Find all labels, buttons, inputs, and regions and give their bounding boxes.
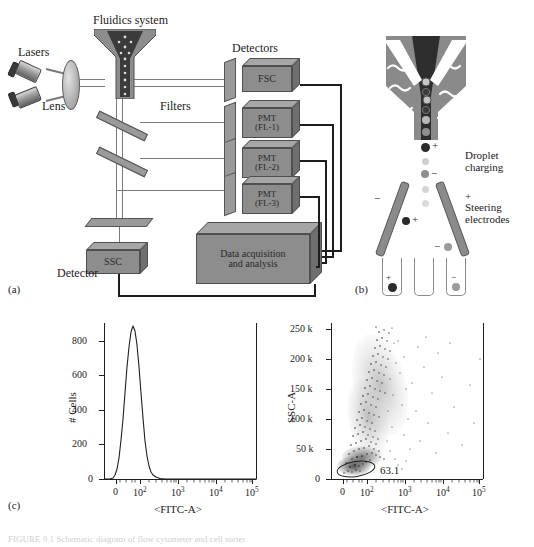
droplet-charging-label: Droplet charging xyxy=(465,150,503,173)
histogram-x-axis-title: <FITC-A> xyxy=(154,503,202,515)
scatter-xlabel-1e3: 103 xyxy=(398,486,412,498)
fsc-box-label: FSC xyxy=(258,74,276,84)
detector-box-pmt-fl2: PMT (FL-2) xyxy=(242,140,300,178)
panel-b: + − Droplet charging − + Steering electr… xyxy=(352,0,534,305)
scatter-ylabel-50k: 50 k xyxy=(296,443,314,454)
histogram-ylabel-600: 600 xyxy=(72,369,87,380)
ssc-detector-link xyxy=(119,227,120,243)
wire-ssc-up xyxy=(314,284,316,297)
detector-box-pmt-fl3: PMT (FL-3) xyxy=(242,176,300,214)
filters-label: Filters xyxy=(160,100,191,113)
deflected-droplet-left xyxy=(402,217,410,225)
tube-right-minus-symbol: − xyxy=(451,272,456,282)
scatter-points xyxy=(332,323,483,480)
fl2-light-path xyxy=(140,158,228,159)
steering-electrodes-label: Steering electrodes xyxy=(465,202,510,225)
bandpass-filter-fl3 xyxy=(224,172,236,216)
steering-line1: Steering xyxy=(465,202,510,214)
bandpass-filter-fsc xyxy=(224,58,236,102)
figure-caption: FIGURE 9.1 Schematic diagram of flow cyt… xyxy=(8,534,528,544)
histogram-ylabel-800: 800 xyxy=(72,335,87,346)
scatter-minor-ticks xyxy=(331,480,484,484)
wire-fsc-v xyxy=(340,84,342,252)
data-acquisition-box: Data acquisition and analysis xyxy=(196,222,322,284)
deflected-left-plus-symbol: + xyxy=(412,213,418,225)
wire-fsc-h xyxy=(300,84,342,86)
panel-a: Lasers Lens Fluidics system xyxy=(0,0,352,305)
histogram-xlabel-1e2: 102 xyxy=(133,486,147,498)
wire-fl2-v xyxy=(325,160,327,262)
collected-droplet-left xyxy=(388,283,397,292)
collection-tube-center xyxy=(414,258,434,296)
wire-fl3-h xyxy=(300,196,320,198)
scatter-ylabel-0: 0 xyxy=(315,473,320,484)
pmt-fl2-label-line2: (FL-2) xyxy=(255,163,279,172)
wire-fl1-in xyxy=(322,256,334,258)
droplet-neutral-2 xyxy=(422,186,429,193)
histogram-xlabel-1e5: 105 xyxy=(245,486,259,498)
collected-droplet-right xyxy=(452,283,460,291)
fl3-light-path xyxy=(117,190,228,191)
scatter-xlabel-0: 0 xyxy=(340,486,345,497)
panel-c: 0 200 400 600 800 xyxy=(0,305,534,535)
wire-fl2-in xyxy=(322,262,327,264)
scatter-ytick-200k xyxy=(326,359,331,360)
lens-label: Lens xyxy=(42,100,65,113)
detector-box-pmt-fl1: PMT (FL-1) xyxy=(242,100,300,138)
histogram-xlabel-0: 0 xyxy=(113,486,118,497)
daq-label-line2: and analysis xyxy=(228,259,277,269)
fl1-light-path xyxy=(140,122,228,123)
panel-c-tag: (c) xyxy=(8,499,20,511)
detector-box-fsc: FSC xyxy=(242,58,300,92)
fluidics-system-label: Fluidics system xyxy=(93,14,168,27)
scatter-frame-right xyxy=(483,323,484,479)
wire-fl2-h xyxy=(300,160,327,162)
chart-scatter: 0 50 k 100 k 150 k 200 k 250 k xyxy=(285,323,515,513)
scatter-gate-label: 63.1 xyxy=(380,464,399,476)
pmt-fl3-label-line2: (FL-3) xyxy=(255,199,279,208)
scatter-xlabel-1e5: 105 xyxy=(472,486,486,498)
lasers-label: Lasers xyxy=(18,46,49,59)
droplet-charged-negative xyxy=(421,170,429,178)
scatter-y-axis-title: SSC-A xyxy=(285,392,297,423)
panel-b-tag: (b) xyxy=(355,283,368,295)
scatter-ylabel-200k: 200 k xyxy=(290,353,313,364)
droplet-charging-line1: Droplet xyxy=(465,150,503,162)
scatter-ytick-250k xyxy=(326,329,331,330)
scatter-x-axis-title: <FITC-A> xyxy=(381,503,429,515)
wire-fl3-v xyxy=(318,196,320,268)
histogram-xlabel-1e4: 104 xyxy=(209,486,223,498)
ssc-box-label: SSC xyxy=(104,257,122,267)
detectors-label: Detectors xyxy=(232,42,278,55)
scatter-xlabel-1e4: 104 xyxy=(436,486,450,498)
deflected-droplet-right xyxy=(444,243,452,251)
fluidics-funnel-icon xyxy=(94,29,156,99)
pmt-fl1-label-line2: (FL-1) xyxy=(255,123,279,132)
histogram-ylabel-0: 0 xyxy=(88,473,93,484)
histogram-curve xyxy=(104,323,257,480)
wire-fl1-h xyxy=(300,124,334,126)
figure-root: Lasers Lens Fluidics system xyxy=(0,0,534,547)
sorter-nozzle-icon xyxy=(378,36,474,140)
electrode-left-minus-symbol: − xyxy=(374,192,380,204)
wire-ssc-h xyxy=(118,295,316,297)
droplet-plus-symbol: + xyxy=(432,139,438,151)
wire-fl1-v xyxy=(332,124,334,258)
scatter-ytick-50k xyxy=(326,449,331,450)
histogram-minor-ticks xyxy=(104,480,257,484)
tube-left-plus-symbol: + xyxy=(386,272,391,282)
deflected-right-minus-symbol: − xyxy=(434,240,440,252)
detector-label: Detector xyxy=(57,267,98,280)
droplet-neutral-3 xyxy=(422,200,429,207)
steering-line2: electrodes xyxy=(465,214,510,226)
wire-fl3-in xyxy=(316,266,320,268)
scatter-ylabel-250k: 250 k xyxy=(290,323,313,334)
chart-histogram: 0 200 400 600 800 xyxy=(60,323,270,513)
droplet-charging-line2: charging xyxy=(465,162,503,174)
droplet-neutral-1 xyxy=(422,158,429,165)
wire-ssc-v xyxy=(118,274,120,297)
histogram-xlabel-1e3: 103 xyxy=(171,486,185,498)
histogram-y-axis-title: # Cells xyxy=(66,392,78,423)
panel-a-tag: (a) xyxy=(8,283,20,295)
scatter-xlabel-1e2: 102 xyxy=(360,486,374,498)
